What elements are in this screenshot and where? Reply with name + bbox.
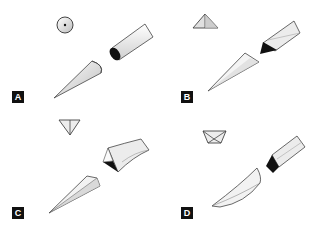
panel-label-b: B [181, 91, 193, 103]
panel-label-d: D [181, 207, 193, 219]
cross-section-triangle-down-icon [59, 120, 80, 135]
reverse-cutting-shaft-icon [103, 139, 149, 172]
cross-section-triangle-up-icon [193, 14, 218, 28]
panel-a: A [0, 0, 160, 114]
spatula-shaft-icon [266, 136, 305, 173]
panel-b: B [160, 0, 320, 114]
round-tip-icon [54, 61, 102, 98]
cross-section-spatula-icon [203, 131, 226, 143]
round-shaft-icon [107, 24, 153, 62]
cross-section-round-icon [57, 17, 73, 33]
reverse-cutting-tip-icon [49, 176, 100, 213]
panel-d: D [160, 115, 320, 229]
cutting-shaft-icon [260, 21, 300, 54]
panel-label-c: C [12, 207, 24, 219]
panel-label-a: A [12, 91, 24, 103]
panel-c: C [0, 115, 160, 229]
cutting-tip-icon [208, 53, 259, 91]
panel-a-illustration [0, 0, 160, 114]
spatula-tip-icon [212, 168, 261, 207]
panel-c-illustration [0, 115, 160, 229]
